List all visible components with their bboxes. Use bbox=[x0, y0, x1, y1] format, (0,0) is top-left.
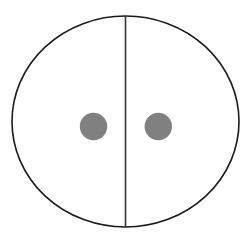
right-dot bbox=[145, 113, 172, 140]
left-dot bbox=[80, 113, 107, 140]
divided-oval-diagram bbox=[0, 0, 248, 237]
